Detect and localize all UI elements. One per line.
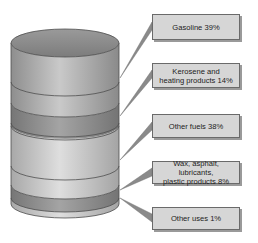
- label-text: Other uses 1%: [171, 214, 221, 223]
- label-text: Wax, asphalt, lubricants, plastic produc…: [155, 159, 237, 186]
- label-gasoline: Gasoline 39%: [152, 14, 240, 40]
- label-other-fuels: Other fuels 38%: [152, 114, 240, 138]
- label-text: Other fuels 38%: [169, 122, 223, 131]
- barrel-top: [11, 29, 119, 57]
- label-text: Gasoline 39%: [172, 23, 219, 32]
- label-wax-asphalt: Wax, asphalt, lubricants, plastic produc…: [152, 161, 240, 184]
- label-text: Kerosene and heating products 14%: [159, 67, 232, 85]
- barrel: [11, 29, 119, 218]
- label-kerosene: Kerosene and heating products 14%: [152, 63, 240, 88]
- label-other-uses: Other uses 1%: [152, 207, 240, 230]
- leader-lines: [120, 22, 152, 222]
